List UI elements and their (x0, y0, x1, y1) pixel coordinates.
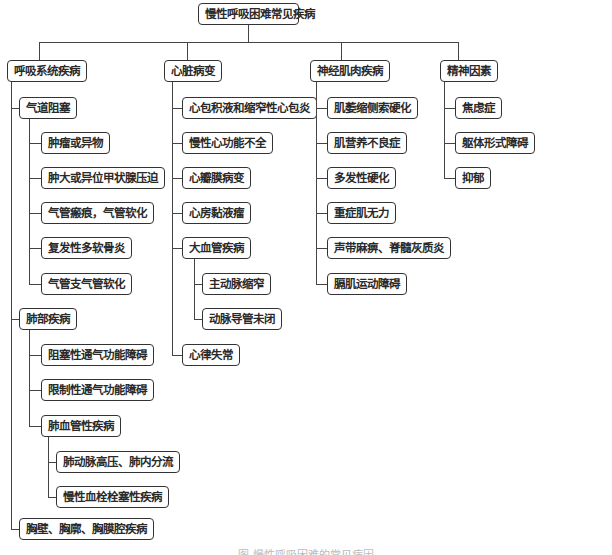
connector (29, 390, 41, 391)
root-node: 慢性呼吸困难常见疾病 (198, 3, 299, 25)
connector (29, 178, 41, 179)
connector (172, 355, 182, 356)
group-chest-wall: 胸壁、胸廓、胸膜腔疾病 (19, 518, 154, 540)
leaf-node: 肌萎缩侧索硬化 (327, 97, 418, 119)
connector (11, 82, 12, 529)
connector (248, 25, 249, 42)
connector (316, 108, 327, 109)
leaf-node: 重症肌无力 (327, 202, 396, 224)
connector (194, 319, 202, 320)
leaf-node: 复发性多软骨炎 (41, 237, 132, 259)
leaf-node: 阻塞性通气功能障碍 (41, 344, 154, 366)
leaf-node: 躯体形式障碍 (455, 132, 535, 154)
connector (444, 82, 445, 178)
leaf-node: 心瓣膜病变 (182, 167, 251, 189)
connector (172, 248, 182, 249)
leaf-node: 肿大或异位甲状腺压迫 (41, 167, 165, 189)
leaf-node: 动脉导管未闭 (202, 308, 282, 330)
subgroup-pulmonary-vascular: 肺血管性疾病 (41, 415, 121, 437)
leaf-node: 声带麻痹、脊髓灰质炎 (327, 237, 451, 259)
leaf-node: 心律失常 (182, 344, 240, 366)
connector (444, 108, 455, 109)
connector (48, 497, 56, 498)
leaf-node: 气管支气管软化 (41, 273, 132, 295)
connector (29, 143, 41, 144)
connector (316, 213, 327, 214)
category-psychological: 精神因素 (440, 60, 498, 82)
connector (11, 529, 19, 530)
connector (11, 108, 19, 109)
connector (172, 143, 182, 144)
connector (458, 42, 459, 60)
leaf-node: 抑郁 (455, 167, 491, 189)
connector (172, 82, 173, 355)
connector (29, 330, 30, 426)
leaf-node: 限制性通气功能障碍 (41, 379, 154, 401)
connector (39, 42, 40, 60)
connector (187, 42, 188, 60)
connector (29, 284, 41, 285)
leaf-node: 慢性血栓栓塞性疾病 (56, 486, 169, 508)
connector (172, 108, 182, 109)
leaf-node: 心房黏液瘤 (182, 202, 251, 224)
leaf-node: 心包积液和缩窄性心包炎 (182, 97, 317, 119)
leaf-node: 多发性硬化 (327, 167, 396, 189)
connector (29, 248, 41, 249)
connector (48, 462, 56, 463)
leaf-node: 膈肌运动障碍 (327, 273, 407, 295)
leaf-node: 主动脉缩窄 (202, 273, 271, 295)
category-respiratory: 呼吸系统疾病 (7, 60, 87, 82)
connector (316, 284, 327, 285)
connector (48, 437, 49, 498)
connector (316, 248, 327, 249)
leaf-node: 焦虑症 (455, 97, 502, 119)
connector (39, 42, 458, 43)
subgroup-great-vessel: 大血管疾病 (182, 237, 251, 259)
group-airway-obstruction: 气道阻塞 (19, 97, 77, 119)
leaf-node: 肌营养不良症 (327, 132, 407, 154)
connector (172, 178, 182, 179)
category-neuromuscular: 神经肌肉疾病 (310, 60, 390, 82)
leaf-node: 气管瘢痕，气管软化 (41, 202, 154, 224)
connector (444, 143, 455, 144)
connector (11, 319, 19, 320)
connector (194, 259, 195, 320)
connector (29, 426, 41, 427)
leaf-node: 肺动脉高压、肺内分流 (56, 451, 180, 473)
connector (172, 213, 182, 214)
connector (341, 42, 342, 60)
leaf-node: 慢性心功能不全 (182, 132, 273, 154)
connector (194, 284, 202, 285)
connector (444, 178, 455, 179)
connector (316, 178, 327, 179)
connector (29, 355, 41, 356)
connector (29, 213, 41, 214)
connector (316, 143, 327, 144)
connector (316, 82, 317, 284)
leaf-node: 肿瘤或异物 (41, 132, 110, 154)
group-lung-disease: 肺部疾病 (19, 308, 77, 330)
figure-caption: 图 慢性呼吸困难的常见病因 (0, 549, 612, 555)
category-cardiac: 心脏病变 (164, 60, 222, 82)
